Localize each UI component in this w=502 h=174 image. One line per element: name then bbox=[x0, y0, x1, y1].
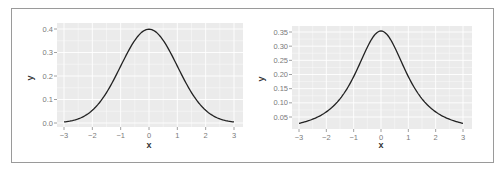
y-tick-label: 0.20 bbox=[273, 70, 288, 79]
left-y-axis-title: y bbox=[25, 75, 35, 80]
y-tick-label: 0.3 bbox=[43, 48, 53, 57]
right-x-axis-title: x bbox=[378, 140, 383, 150]
y-tick-label: 0.10 bbox=[273, 98, 288, 107]
y-tick-label: 0.35 bbox=[273, 28, 288, 37]
x-tick-label: −1 bbox=[116, 131, 125, 140]
right-y-axis-title: y bbox=[256, 76, 266, 81]
x-tick-label: 0 bbox=[147, 131, 151, 140]
x-tick-label: 1 bbox=[406, 133, 410, 142]
y-tick-label: 0.1 bbox=[43, 95, 53, 104]
left-chart: 0.00.10.20.30.4 −3−2−10123 x y bbox=[25, 23, 243, 150]
x-tick-label: 2 bbox=[204, 131, 208, 140]
x-tick-label: −2 bbox=[322, 133, 331, 142]
left-x-axis-title: x bbox=[146, 140, 151, 150]
figure-canvas: 0.00.10.20.30.4 −3−2−10123 x y 0.050.100… bbox=[0, 0, 502, 174]
y-tick-label: 0.2 bbox=[43, 72, 53, 81]
right-chart: 0.050.100.150.200.250.300.35 −3−2−10123 … bbox=[256, 26, 472, 150]
y-tick-label: 0.0 bbox=[43, 119, 53, 128]
x-tick-label: −2 bbox=[88, 131, 97, 140]
y-tick-label: 0.15 bbox=[273, 84, 288, 93]
y-tick-label: 0.25 bbox=[273, 56, 288, 65]
left-x-axis: −3−2−10123 bbox=[60, 127, 236, 140]
x-tick-label: 1 bbox=[175, 131, 179, 140]
y-tick-label: 0.05 bbox=[273, 113, 288, 122]
right-plot-panel bbox=[292, 26, 472, 129]
x-tick-label: −1 bbox=[349, 133, 358, 142]
y-tick-label: 0.30 bbox=[273, 42, 288, 51]
x-tick-label: 2 bbox=[434, 133, 438, 142]
x-tick-label: 3 bbox=[461, 133, 465, 142]
left-y-axis: 0.00.10.20.30.4 bbox=[43, 25, 57, 128]
right-y-axis: 0.050.100.150.200.250.300.35 bbox=[273, 28, 292, 122]
x-tick-label: −3 bbox=[60, 131, 69, 140]
x-tick-label: −3 bbox=[295, 133, 304, 142]
y-tick-label: 0.4 bbox=[43, 25, 53, 34]
x-tick-label: 3 bbox=[232, 131, 236, 140]
